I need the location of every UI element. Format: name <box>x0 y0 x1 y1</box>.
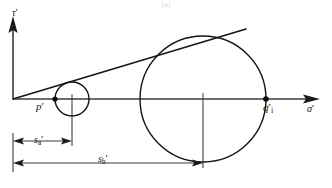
dimension-s-b-prime-label: sb′ <box>98 154 108 166</box>
dimension-s-a-prime-label: sa′ <box>34 135 43 147</box>
sigma-prime-axis-label: σ′ <box>307 104 314 114</box>
point-p-prime-label: p′ <box>36 101 44 112</box>
tau-prime-mark: ′ <box>16 7 18 18</box>
p-prime-mark: ′ <box>42 100 44 112</box>
tau-prime-axis-label: τ′ <box>12 8 18 18</box>
s-b-prime-mark: ′ <box>106 153 108 164</box>
failure-envelope-line <box>13 29 246 99</box>
point-p-prime-marker <box>52 96 57 101</box>
sigma-prime-mark: ′ <box>312 103 314 114</box>
tau-prime-axis <box>8 16 17 99</box>
point-q-prime-i-label: q′i <box>263 102 273 115</box>
sigma-prime-axis <box>13 94 320 103</box>
q-subscript-i: i <box>271 106 273 115</box>
s-a-prime-mark: ′ <box>41 134 43 145</box>
mohr-circle-figure: (a) <box>0 0 332 188</box>
dimension-s-b-prime <box>13 160 203 167</box>
diagram-canvas <box>0 0 332 188</box>
